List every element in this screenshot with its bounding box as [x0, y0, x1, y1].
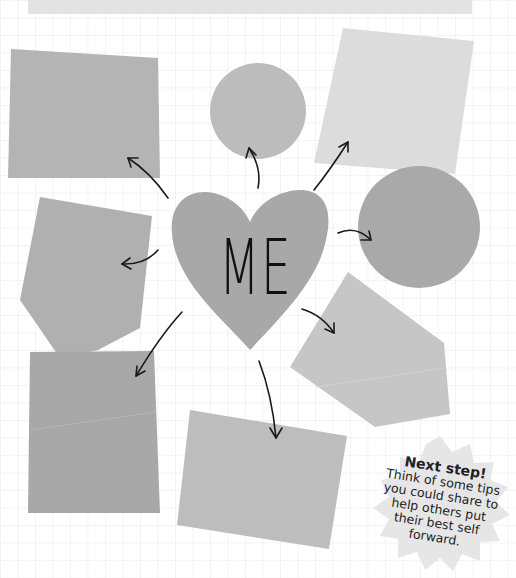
top-center-circle [210, 63, 306, 159]
top-right-square [314, 28, 474, 174]
left-pentagon [20, 197, 152, 358]
bottom-left-rectangle [28, 351, 160, 513]
bottom-center-rectangle [177, 410, 347, 549]
center-label: ME [219, 228, 281, 308]
right-circle [358, 166, 480, 288]
right-pentagon [290, 272, 450, 427]
